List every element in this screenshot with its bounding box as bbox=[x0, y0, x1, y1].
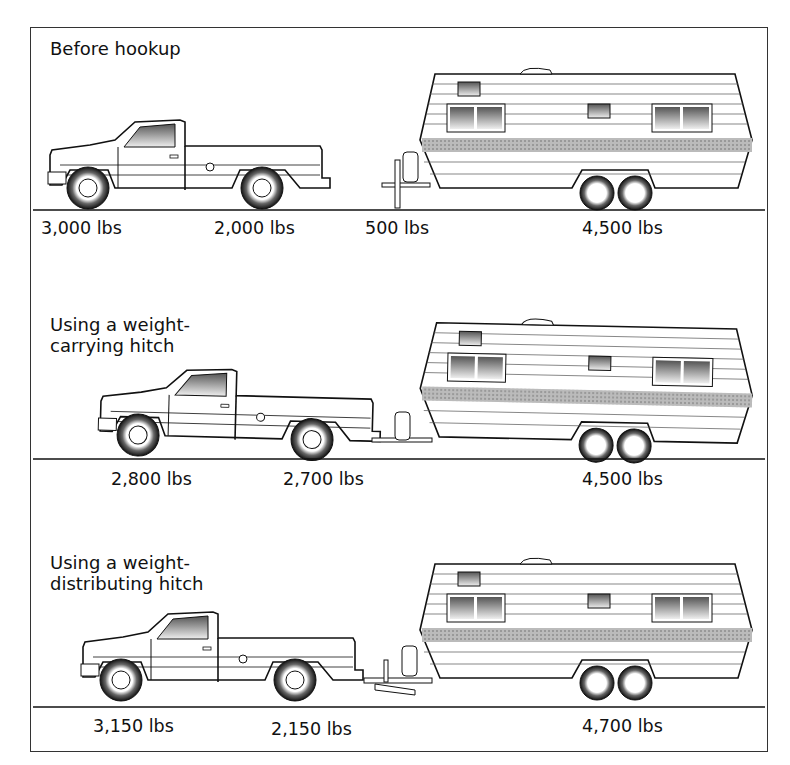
title-line: distributing hitch bbox=[50, 573, 203, 594]
weight-label-trailer-axle: 4,700 lbs bbox=[582, 716, 663, 736]
trailer-illustration bbox=[419, 317, 754, 466]
weight-label-rear-axle: 2,000 lbs bbox=[214, 218, 295, 238]
weight-label-front-axle: 3,000 lbs bbox=[41, 218, 122, 238]
weight-label-trailer-axle: 4,500 lbs bbox=[582, 218, 663, 238]
title-line: Before hookup bbox=[50, 38, 181, 59]
ball-hitch bbox=[372, 412, 432, 442]
weight-label-rear-axle: 2,700 lbs bbox=[283, 469, 364, 489]
truck-illustration bbox=[48, 120, 330, 209]
title-line: Using a weight- bbox=[50, 552, 203, 573]
title-line: Using a weight- bbox=[50, 314, 190, 335]
title-line: carrying hitch bbox=[50, 335, 190, 356]
weight-distributing-hitch bbox=[364, 646, 432, 695]
weight-label-tongue: 500 lbs bbox=[365, 218, 429, 238]
diagram-illustration bbox=[0, 0, 790, 765]
weight-label-front-axle: 3,150 lbs bbox=[93, 716, 174, 736]
weight-label-front-axle: 2,800 lbs bbox=[111, 469, 192, 489]
weight-label-trailer-axle: 4,500 lbs bbox=[582, 469, 663, 489]
trailer-illustration bbox=[420, 558, 752, 700]
panel-2-title: Using a weight- carrying hitch bbox=[50, 314, 190, 356]
truck-illustration bbox=[81, 612, 363, 701]
panel-before-hookup bbox=[33, 68, 765, 210]
panel-1-title: Before hookup bbox=[50, 38, 181, 59]
weight-label-rear-axle: 2,150 lbs bbox=[271, 719, 352, 739]
truck-illustration bbox=[98, 366, 382, 462]
panel-3-title: Using a weight- distributing hitch bbox=[50, 552, 203, 594]
tongue-jack bbox=[382, 152, 430, 208]
trailer-illustration bbox=[420, 68, 752, 210]
